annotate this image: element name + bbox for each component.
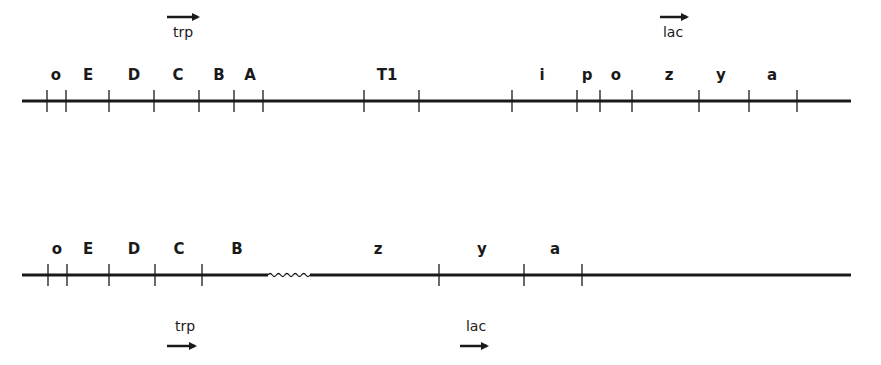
gene-label: A	[244, 66, 256, 84]
gene-label: E	[83, 240, 93, 258]
wavy-deletion-segment	[268, 274, 310, 277]
gene-map-diagram: oEDCBAT1ipozyatrplac oEDCBzyatrplac	[0, 0, 881, 365]
gene-label: o	[611, 66, 621, 84]
gene-label: o	[52, 240, 62, 258]
gene-label: C	[173, 240, 184, 258]
operon-label: lac	[663, 24, 683, 40]
operon-label: trp	[175, 318, 195, 334]
operon-label: lac	[466, 318, 486, 334]
gene-label: z	[665, 66, 674, 84]
bottom-chromosome-map: oEDCBzyatrplac	[22, 240, 851, 346]
gene-label: a	[767, 66, 777, 84]
gene-label: z	[374, 240, 383, 258]
gene-label: D	[128, 240, 140, 258]
gene-label: B	[213, 66, 224, 84]
gene-label: y	[477, 240, 487, 258]
gene-label: a	[550, 240, 560, 258]
gene-label: o	[51, 66, 61, 84]
gene-label: D	[128, 66, 140, 84]
gene-label: E	[83, 66, 93, 84]
top-chromosome-map: oEDCBAT1ipozyatrplac	[22, 17, 851, 112]
gene-label: y	[716, 66, 726, 84]
gene-label: p	[582, 66, 593, 84]
operon-label: trp	[173, 24, 193, 40]
gene-label: C	[172, 66, 183, 84]
gene-label: i	[539, 66, 544, 84]
gene-label: T1	[377, 66, 398, 84]
gene-label: B	[231, 240, 242, 258]
